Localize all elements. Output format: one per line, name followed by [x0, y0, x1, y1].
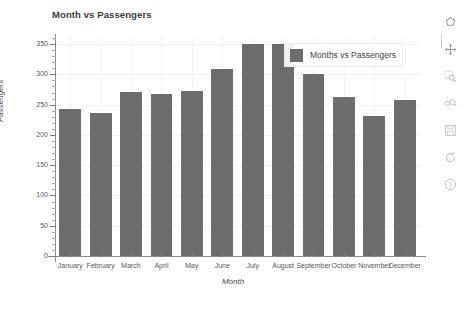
y-tick-minor	[52, 80, 56, 81]
bar-june[interactable]	[211, 69, 233, 256]
x-tick-label-august: August	[272, 262, 294, 269]
y-tick-major	[50, 135, 56, 136]
bar-november[interactable]	[363, 116, 385, 256]
x-tick-label-october: October	[332, 262, 357, 269]
y-tick-minor	[52, 244, 56, 245]
y-tick-label: 50	[8, 222, 48, 229]
legend-swatch-months-vs-passengers	[290, 49, 303, 62]
x-tick-label-april: April	[154, 262, 168, 269]
y-tick-major	[50, 105, 56, 106]
y-axis-title: Passengers	[0, 80, 5, 122]
legend[interactable]: Months vs Passengers	[284, 43, 403, 67]
reset-icon[interactable]	[440, 147, 460, 167]
x-tick-label-february: February	[87, 262, 115, 269]
y-tick-minor	[52, 68, 56, 69]
y-tick-minor	[52, 208, 56, 209]
bar-march[interactable]	[120, 92, 142, 256]
x-tick-major	[405, 251, 406, 257]
wheel-zoom-icon[interactable]	[440, 93, 460, 113]
gridline-horizontal	[55, 105, 420, 106]
y-tick-minor	[52, 141, 56, 142]
y-tick-major	[50, 74, 56, 75]
bar-february[interactable]	[90, 113, 112, 256]
y-tick-major	[50, 256, 56, 257]
x-tick-major	[344, 251, 345, 257]
y-tick-minor	[52, 177, 56, 178]
y-tick-minor	[52, 232, 56, 233]
help-icon[interactable]	[440, 174, 460, 194]
y-tick-minor	[52, 153, 56, 154]
bar-august[interactable]	[272, 44, 294, 256]
x-tick-major	[101, 251, 102, 257]
y-tick-major	[50, 44, 56, 45]
y-tick-minor	[52, 129, 56, 130]
y-tick-minor	[52, 250, 56, 251]
x-tick-major	[131, 251, 132, 257]
x-tick-major	[192, 251, 193, 257]
y-tick-label: 250	[8, 101, 48, 108]
x-axis-title: Month	[0, 277, 466, 286]
chart-canvas: Month vs Passengers Passengers Month Mon…	[0, 0, 466, 315]
chart-title: Month vs Passengers	[52, 9, 152, 20]
y-tick-minor	[52, 123, 56, 124]
y-tick-minor	[52, 214, 56, 215]
y-tick-minor	[52, 111, 56, 112]
y-tick-minor	[52, 220, 56, 221]
y-tick-major	[50, 226, 56, 227]
pan-icon[interactable]	[440, 39, 460, 59]
bar-january[interactable]	[59, 109, 81, 256]
y-tick-minor	[52, 62, 56, 63]
x-tick-label-june: June	[215, 262, 230, 269]
y-tick-label: 350	[8, 40, 48, 47]
toolbar-divider	[441, 34, 442, 48]
y-tick-minor	[52, 202, 56, 203]
y-tick-label: 300	[8, 70, 48, 77]
legend-label: Months vs Passengers	[310, 50, 396, 60]
x-tick-label-november: November	[358, 262, 390, 269]
x-tick-label-july: July	[246, 262, 258, 269]
y-tick-minor	[52, 171, 56, 172]
save-icon[interactable]	[440, 120, 460, 140]
y-tick-minor	[52, 56, 56, 57]
y-tick-minor	[52, 99, 56, 100]
bar-december[interactable]	[394, 100, 416, 256]
y-tick-label: 200	[8, 131, 48, 138]
x-tick-major	[283, 251, 284, 257]
bar-april[interactable]	[151, 94, 173, 256]
x-tick-major	[70, 251, 71, 257]
y-tick-minor	[52, 38, 56, 39]
y-tick-minor	[52, 117, 56, 118]
x-tick-label-may: May	[185, 262, 198, 269]
x-tick-label-september: September	[296, 262, 330, 269]
x-axis-line	[48, 256, 426, 257]
bar-october[interactable]	[333, 97, 355, 256]
x-tick-major	[222, 251, 223, 257]
x-tick-label-december: December	[389, 262, 421, 269]
y-tick-major	[50, 165, 56, 166]
plot-area[interactable]	[55, 38, 420, 256]
bar-may[interactable]	[181, 91, 203, 256]
y-tick-major	[50, 195, 56, 196]
y-tick-minor	[52, 159, 56, 160]
x-tick-label-january: January	[58, 262, 83, 269]
y-tick-minor	[52, 189, 56, 190]
lasso-select-icon[interactable]	[440, 12, 460, 32]
y-tick-label: 150	[8, 161, 48, 168]
x-tick-label-march: March	[121, 262, 140, 269]
plot-toolbar[interactable]	[437, 12, 463, 194]
y-tick-minor	[52, 238, 56, 239]
box-zoom-icon[interactable]	[440, 66, 460, 86]
y-tick-minor	[52, 50, 56, 51]
x-tick-major	[374, 251, 375, 257]
bar-july[interactable]	[242, 44, 264, 256]
bar-september[interactable]	[303, 74, 325, 256]
x-tick-major	[253, 251, 254, 257]
y-tick-minor	[52, 183, 56, 184]
x-tick-major	[161, 251, 162, 257]
y-tick-minor	[52, 86, 56, 87]
y-tick-minor	[52, 147, 56, 148]
x-tick-major	[314, 251, 315, 257]
y-tick-label: 0	[8, 252, 48, 259]
gridline-horizontal	[55, 74, 420, 75]
y-tick-minor	[52, 93, 56, 94]
